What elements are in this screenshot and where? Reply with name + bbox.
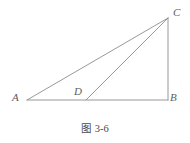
geometry-figure: A B C D 图 3-6 xyxy=(0,0,190,143)
vertex-label-a: A xyxy=(12,92,19,103)
vertex-label-c: C xyxy=(173,7,180,18)
vertex-label-b: B xyxy=(170,92,177,103)
figure-caption-index: 3-6 xyxy=(95,123,109,134)
figure-caption: 图 3-6 xyxy=(0,122,190,135)
figure-caption-prefix: 图 xyxy=(81,123,91,134)
hypotenuse-line-ac xyxy=(27,18,168,100)
vertex-label-d: D xyxy=(74,86,82,97)
